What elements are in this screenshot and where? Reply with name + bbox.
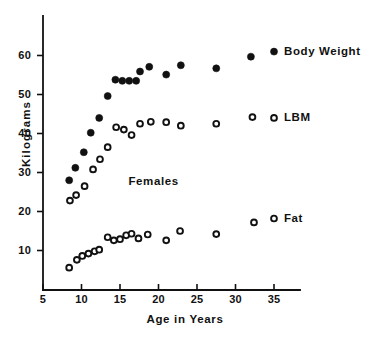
series-label-body-weight: Body Weight xyxy=(284,45,361,57)
data-point xyxy=(117,236,123,242)
data-point xyxy=(121,127,127,133)
data-point xyxy=(72,164,79,171)
data-point xyxy=(133,77,140,84)
x-tick-label: 30 xyxy=(221,293,251,305)
data-point xyxy=(97,156,103,162)
data-point xyxy=(136,236,142,242)
data-point xyxy=(119,77,126,84)
y-tick-label: 60 xyxy=(0,49,31,61)
data-point xyxy=(178,123,184,129)
data-point xyxy=(163,71,170,78)
x-axis-title: Age in Years xyxy=(100,313,270,325)
x-tick-label: 10 xyxy=(67,293,97,305)
data-point xyxy=(213,121,219,127)
data-point xyxy=(177,228,183,234)
data-point xyxy=(73,192,79,198)
data-point xyxy=(137,121,143,127)
y-tick-label: 10 xyxy=(0,244,31,256)
data-point xyxy=(105,234,111,240)
data-point xyxy=(126,77,133,84)
data-point xyxy=(113,124,119,130)
x-tick-label: 5 xyxy=(28,293,58,305)
data-point xyxy=(87,129,94,136)
legend-marker xyxy=(271,115,277,121)
y-axis-title: Kilograms xyxy=(20,89,32,179)
data-point xyxy=(82,183,88,189)
data-point xyxy=(148,119,154,125)
data-point xyxy=(129,132,135,138)
data-point xyxy=(145,232,151,238)
data-point xyxy=(90,166,96,172)
data-point xyxy=(177,62,184,69)
legend-marker xyxy=(271,48,278,55)
data-point xyxy=(251,220,257,226)
data-point xyxy=(80,149,87,156)
data-point xyxy=(79,253,85,259)
scatter-chart-figure: 102030405060 5101520253035 Kilograms Age… xyxy=(0,0,365,338)
data-point xyxy=(104,93,111,100)
data-point xyxy=(86,251,92,257)
data-point xyxy=(66,177,73,184)
data-point xyxy=(213,65,220,72)
data-point xyxy=(163,119,169,125)
data-point xyxy=(112,76,119,83)
y-tick-label: 20 xyxy=(0,205,31,217)
x-tick-label: 25 xyxy=(182,293,212,305)
annotation-females: Females xyxy=(129,175,179,187)
data-points xyxy=(66,48,278,270)
x-tick-label: 15 xyxy=(105,293,135,305)
data-point xyxy=(213,231,219,237)
series-label-lbm: LBM xyxy=(284,111,311,123)
x-tick-label: 20 xyxy=(144,293,174,305)
data-point xyxy=(137,68,144,75)
data-point xyxy=(67,198,73,204)
x-tick-label: 35 xyxy=(259,293,289,305)
data-point xyxy=(247,53,254,60)
data-point xyxy=(96,114,103,121)
data-point xyxy=(129,231,135,237)
legend-marker xyxy=(271,216,277,222)
data-point xyxy=(96,247,102,253)
data-point xyxy=(250,114,256,120)
data-point xyxy=(105,144,111,150)
data-point xyxy=(163,237,169,243)
data-point xyxy=(66,265,72,271)
data-point xyxy=(111,237,117,243)
series-label-fat: Fat xyxy=(284,212,303,224)
data-point xyxy=(146,63,153,70)
